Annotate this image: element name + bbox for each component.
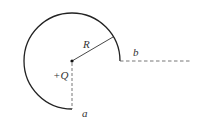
radius-line — [72, 37, 113, 61]
center-charge-dot — [70, 59, 73, 62]
charged-arc-diagram: R +Q a b — [0, 0, 201, 131]
point-a-label: a — [82, 107, 88, 119]
point-b-label: b — [133, 46, 139, 58]
radius-label: R — [82, 38, 90, 50]
charge-label: +Q — [53, 69, 68, 81]
